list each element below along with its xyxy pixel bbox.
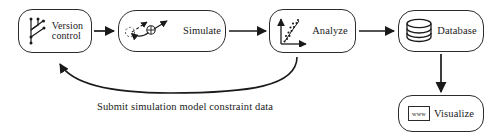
- www-browser-icon: www: [408, 106, 430, 121]
- node-analyze-label: Analyze: [312, 25, 348, 36]
- connector-analyze-to-version-control: [60, 57, 297, 93]
- feedback-loop-caption: Submit simulation model constraint data: [50, 101, 320, 112]
- node-visualize-label: Visualize: [434, 108, 474, 119]
- node-simulate[interactable]: Simulate: [118, 10, 226, 52]
- node-simulate-label: Simulate: [183, 25, 221, 36]
- node-analyze[interactable]: Analyze: [269, 9, 356, 53]
- particle-trajectory-icon: [123, 16, 177, 46]
- database-cylinder-icon: [405, 17, 433, 45]
- git-branch-icon: [27, 16, 48, 46]
- node-database[interactable]: Database: [398, 10, 484, 52]
- node-version-control-label: Version control: [52, 21, 83, 42]
- node-database-label: Database: [437, 25, 476, 36]
- node-version-control[interactable]: Version control: [18, 9, 92, 53]
- scatter-plot-icon: [277, 15, 308, 47]
- node-visualize[interactable]: www Visualize: [398, 95, 484, 132]
- workflow-diagram: Version control Simulate: [0, 0, 498, 138]
